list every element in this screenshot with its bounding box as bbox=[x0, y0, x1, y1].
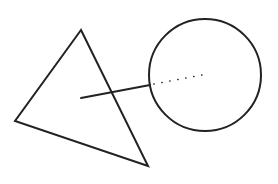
diagram-canvas bbox=[0, 0, 278, 184]
solid-connector-line bbox=[81, 85, 150, 98]
dotted-radius-line bbox=[154, 74, 207, 84]
circle-shape bbox=[149, 19, 261, 131]
